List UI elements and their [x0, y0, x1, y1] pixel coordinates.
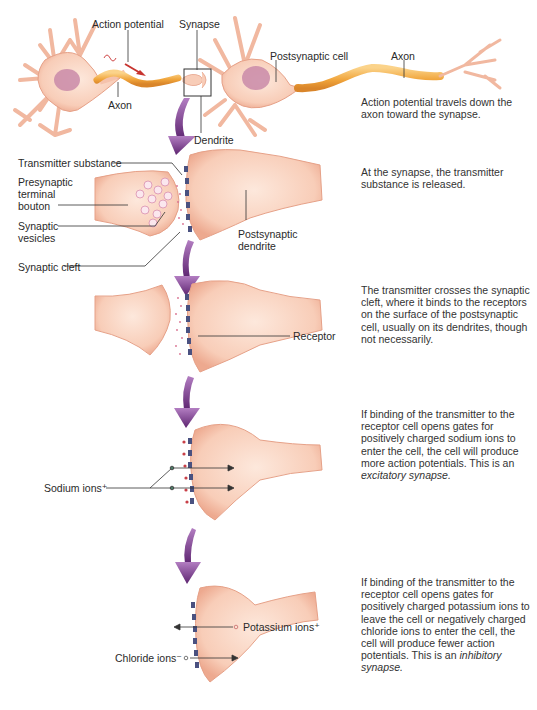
- label-postsynaptic-dendrite: Postsynaptic dendrite: [238, 228, 298, 252]
- description-action-potential: Action potential travels down the axon t…: [361, 96, 533, 120]
- label-synapse: Synapse: [179, 18, 220, 30]
- label-transmitter-substance: Transmitter substance: [18, 157, 121, 169]
- description-binding: The transmitter crosses the synaptic cle…: [361, 284, 533, 345]
- label-postsyn-dendrite-line-1: Postsynaptic: [238, 228, 298, 240]
- label-chloride-ions: Chloride ions⁻: [115, 652, 182, 664]
- label-postsynaptic-cell: Postsynaptic cell: [270, 50, 348, 62]
- label-action-potential: Action potential: [92, 18, 164, 30]
- description-excitatory: If binding of the transmitter to the rec…: [361, 408, 533, 481]
- label-axon-left: Axon: [108, 99, 132, 111]
- excitatory-diagram: [182, 424, 322, 520]
- label-axon-right: Axon: [391, 50, 415, 62]
- label-synaptic-vesicles: Synaptic vesicles: [18, 220, 58, 244]
- binding-diagram: [95, 281, 322, 372]
- inhibitory-text: If binding of the transmitter to the rec…: [361, 576, 530, 661]
- label-receptor: Receptor: [293, 330, 336, 342]
- label-synaptic-cleft: Synaptic cleft: [18, 261, 80, 273]
- label-presynaptic-line-3: bouton: [18, 200, 73, 212]
- label-sodium-ions: Sodium ions⁺: [44, 482, 107, 494]
- excitatory-text: If binding of the transmitter to the rec…: [361, 408, 519, 469]
- label-vesicles-line-1: Synaptic: [18, 220, 58, 232]
- label-presynaptic-terminal-bouton: Presynaptic terminal bouton: [18, 176, 73, 212]
- label-presynaptic-line-1: Presynaptic: [18, 176, 73, 188]
- label-potassium-ions: Potassium ions⁺: [243, 621, 320, 633]
- postsynaptic-neuron: [200, 18, 300, 135]
- excitatory-term: excitatory synapse.: [361, 469, 451, 481]
- label-postsyn-dendrite-line-2: dendrite: [238, 240, 298, 252]
- description-release: At the synapse, the transmitter substanc…: [361, 166, 533, 190]
- label-vesicles-line-2: vesicles: [18, 232, 58, 244]
- description-inhibitory: If binding of the transmitter to the rec…: [361, 576, 533, 674]
- label-presynaptic-line-2: terminal: [18, 188, 73, 200]
- axon-right: [298, 68, 440, 88]
- presynaptic-neuron: [15, 20, 125, 135]
- inhibitory-diagram: [191, 586, 318, 682]
- label-dendrite: Dendrite: [194, 134, 234, 146]
